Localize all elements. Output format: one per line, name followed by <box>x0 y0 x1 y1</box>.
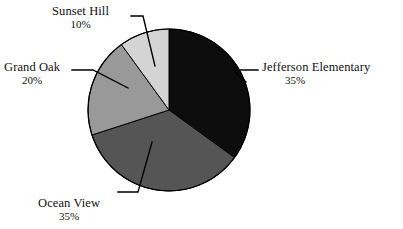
pie-label-grand-oak: Grand Oak 20% <box>4 60 60 86</box>
pie-label-jefferson-elementary-name: Jefferson Elementary <box>262 60 370 74</box>
pie-label-ocean-view-percent: 35% <box>38 210 100 222</box>
pie-label-sunset-hill-percent: 10% <box>52 18 109 30</box>
pie-label-sunset-hill: Sunset Hill 10% <box>52 4 109 30</box>
pie-label-ocean-view-name: Ocean View <box>38 196 100 210</box>
pie-label-ocean-view: Ocean View 35% <box>38 196 100 222</box>
pie-label-grand-oak-name: Grand Oak <box>4 60 60 74</box>
pie-label-jefferson-elementary-percent: 35% <box>262 74 370 86</box>
pie-chart-figure: Jefferson Elementary 35% Sunset Hill 10%… <box>0 0 403 229</box>
pie-label-sunset-hill-name: Sunset Hill <box>52 4 109 18</box>
pie-label-grand-oak-percent: 20% <box>4 74 60 86</box>
pie-label-jefferson-elementary: Jefferson Elementary 35% <box>262 60 370 86</box>
pie-chart-canvas <box>0 0 403 229</box>
